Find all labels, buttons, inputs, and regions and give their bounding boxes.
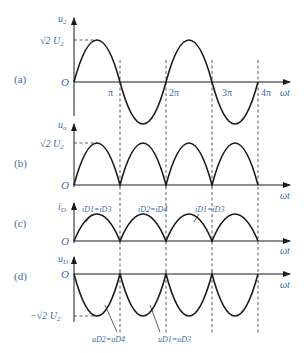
panel-a: u2 √2 U2 O (a) π 2π 3π 4π ωt <box>14 13 290 124</box>
panel-tag-c: (c) <box>14 217 27 230</box>
trough-label-d: −√2 U2 <box>30 310 61 323</box>
annotation-ud2-ud4: uD2=uD4 <box>92 335 125 344</box>
ylabel-d: uD <box>58 253 68 266</box>
origin-b: O <box>61 179 69 191</box>
xlabel-a: ωt <box>280 87 290 98</box>
peak-label-b: √2 U2 <box>40 138 64 151</box>
xlabel-c: ωt <box>280 245 290 256</box>
panel-tag-b: (b) <box>14 157 27 170</box>
origin-d: O <box>61 268 69 280</box>
panel-b: uo √2 U2 O (b) ωt <box>14 119 290 201</box>
origin-a: O <box>61 76 69 88</box>
xlabel-b: ωt <box>280 190 290 201</box>
panel-c: iD iD1=iD3 iD2=iD4 iD1=iD3 O (c) ωt <box>14 201 290 256</box>
tick-pi: π <box>108 87 113 98</box>
annotation-ud1-ud3: uD1=uD3 <box>158 335 191 344</box>
ylabel-a: u2 <box>58 13 67 26</box>
panel-d: uD O −√2 U2 (d) ωt uD2=uD4 uD1=uD3 <box>14 253 290 344</box>
ylabel-b: uo <box>58 119 67 132</box>
ylabel-c: iD <box>58 201 66 214</box>
xlabel-d: ωt <box>280 279 290 290</box>
annotation-id1-id3: iD1=iD3 <box>82 205 111 214</box>
annotation-id2-id4: iD2=iD4 <box>138 205 167 214</box>
panel-tag-d: (d) <box>14 270 27 283</box>
period-guides <box>120 60 258 335</box>
tick-3pi: 3π <box>222 87 232 98</box>
tick-2pi: 2π <box>169 87 179 98</box>
origin-c: O <box>61 235 69 247</box>
panel-tag-a: (a) <box>14 73 27 86</box>
tick-4pi: 4π <box>261 87 271 98</box>
bridge-rectifier-waveforms: u2 √2 U2 O (a) π 2π 3π 4π ωt uo √2 U2 O … <box>0 0 304 353</box>
peak-label-a: √2 U2 <box>40 35 64 48</box>
annotation-id1-id3-2: iD1=iD3 <box>195 205 224 214</box>
